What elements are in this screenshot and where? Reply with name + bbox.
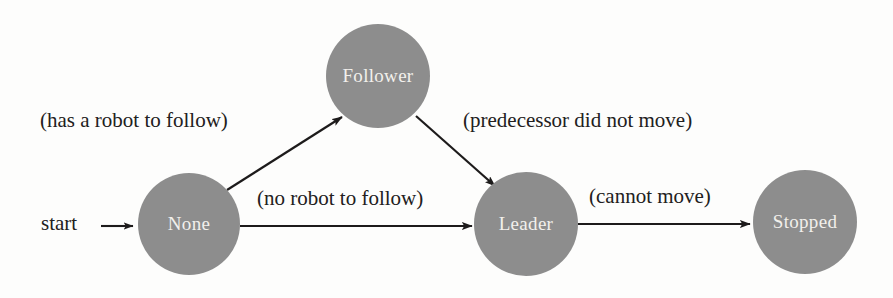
state-node-follower-label: Follower (342, 65, 413, 87)
edge-label-no-robot-to-follow: (no robot to follow) (257, 186, 423, 211)
state-node-stopped-label: Stopped (773, 211, 837, 233)
state-node-stopped[interactable]: Stopped (753, 170, 857, 274)
edge-layer (0, 0, 893, 298)
state-node-follower[interactable]: Follower (326, 24, 430, 128)
edge-none-to-follower (227, 117, 342, 190)
state-diagram: start None Follower Leader Stopped (has … (0, 0, 893, 298)
start-label: start (41, 211, 77, 236)
state-node-none-label: None (168, 213, 210, 235)
state-node-leader-label: Leader (499, 213, 554, 235)
state-node-none[interactable]: None (138, 173, 240, 275)
edge-label-cannot-move: (cannot move) (589, 184, 711, 209)
edge-label-has-a-robot-to-follow: (has a robot to follow) (40, 108, 228, 133)
state-node-leader[interactable]: Leader (474, 172, 578, 276)
edge-label-predecessor-did-not-move: (predecessor did not move) (463, 108, 692, 133)
